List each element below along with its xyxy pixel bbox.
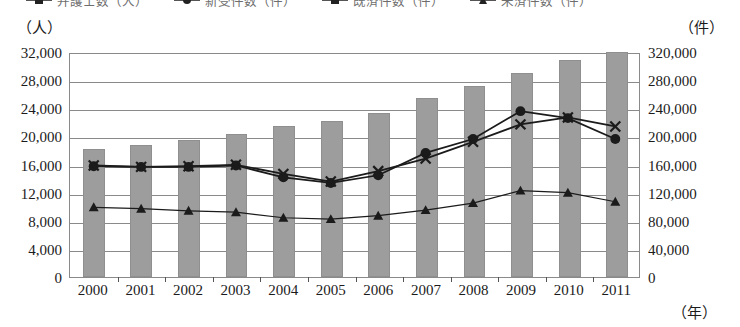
x-tick	[260, 277, 261, 282]
legend-item-bengoshi: 弁護士数（人）	[26, 0, 148, 7]
chart-figure: 弁護士数（人） 新受件数（件） 既済件数（件） 未済件数（件） （人） （件） …	[0, 0, 740, 327]
plot-area	[69, 53, 640, 278]
left-axis-unit: （人）	[17, 16, 62, 37]
y2-tick-label: 80,000	[648, 215, 689, 230]
y-tick-label: 28,000	[0, 74, 62, 89]
y-tick-label: 0	[0, 271, 62, 286]
x-axis-unit: （年）	[672, 301, 717, 322]
legend-item-kisai: 既済件数（件）	[322, 0, 444, 7]
square-marker-icon	[26, 0, 52, 1]
y2-tick-label: 40,000	[648, 243, 689, 258]
line-x-marker	[94, 117, 616, 181]
triangle-marker	[515, 186, 525, 195]
y-tick-label: 12,000	[0, 187, 62, 202]
legend-label-2: 既済件数（件）	[353, 0, 444, 7]
line-series	[70, 54, 639, 277]
y2-tick-label: 320,000	[648, 46, 697, 61]
legend-item-shinju: 新受件数（件）	[174, 0, 296, 7]
x-tick	[593, 277, 594, 282]
triangle-marker	[89, 202, 99, 211]
y-tick-label: 4,000	[0, 243, 62, 258]
y-tick-label: 20,000	[0, 130, 62, 145]
legend-label-1: 新受件数（件）	[205, 0, 296, 7]
legend-item-misai: 未済件数（件）	[470, 0, 592, 7]
x-tick	[213, 277, 214, 282]
x-tick	[498, 277, 499, 282]
y2-tick-label: 200,000	[648, 130, 697, 145]
y2-tick-label: 280,000	[648, 74, 697, 89]
y2-tick-label: 160,000	[648, 159, 697, 174]
y2-tick-label: 120,000	[648, 187, 697, 202]
y-tick-label: 8,000	[0, 215, 62, 230]
y-tick-label: 24,000	[0, 102, 62, 117]
circle-marker	[515, 106, 525, 116]
right-axis-unit: （件）	[679, 16, 724, 37]
legend-label-0: 弁護士数（人）	[57, 0, 148, 7]
y-tick-label: 16,000	[0, 159, 62, 174]
chart-legend: 弁護士数（人） 新受件数（件） 既済件数（件） 未済件数（件）	[0, 0, 740, 7]
triangle-marker-icon	[470, 0, 496, 1]
x-tick	[356, 277, 357, 282]
x-tick	[118, 277, 119, 282]
y2-tick-label: 240,000	[648, 102, 697, 117]
x-tick	[546, 277, 547, 282]
x-tick	[308, 277, 309, 282]
x-tick	[451, 277, 452, 282]
circle-marker-icon	[174, 0, 200, 1]
x-tick	[403, 277, 404, 282]
line-triangle-marker	[94, 191, 616, 220]
y-tick-label: 32,000	[0, 46, 62, 61]
x-marker-icon	[322, 0, 348, 1]
y2-tick-label: 0	[648, 271, 656, 286]
circle-marker	[610, 134, 620, 144]
legend-label-3: 未済件数（件）	[501, 0, 592, 7]
x-tick-label-2011: 2011	[587, 283, 645, 298]
x-tick	[165, 277, 166, 282]
